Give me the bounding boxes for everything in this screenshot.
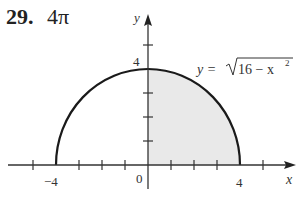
y-tick-label-4: 4 xyxy=(133,54,140,69)
shaded-region xyxy=(148,69,240,165)
x-tick-label-4: 4 xyxy=(236,175,243,190)
function-label-lhs: y = xyxy=(195,62,216,77)
function-label-radicand: 16 − x xyxy=(238,62,274,77)
y-axis-label: y xyxy=(132,10,140,25)
x-tick-label-neg4: −4 xyxy=(44,174,58,189)
semicircle-chart: y 4 −4 0 4 x y = 16 − x 2 xyxy=(0,0,301,215)
x-axis-label: x xyxy=(285,172,293,187)
function-label-exponent: 2 xyxy=(285,58,290,68)
x-tick-label-0: 0 xyxy=(136,171,143,186)
function-label: y = 16 − x 2 xyxy=(195,58,293,77)
